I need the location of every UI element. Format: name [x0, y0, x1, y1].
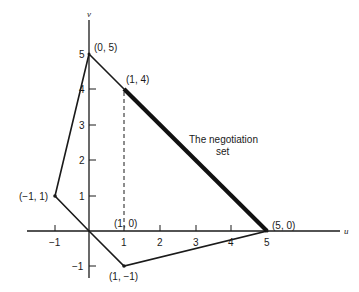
x-tick-label: 5: [264, 237, 270, 248]
y-ticks: [89, 89, 96, 266]
x-tick-label: 4: [228, 237, 234, 248]
x-tick-label: 2: [157, 237, 163, 248]
vertex-dots: [53, 53, 268, 268]
x-tick-label: −1: [49, 237, 61, 248]
negotiation-set-annotation-line1: The negotiation: [189, 134, 258, 145]
negotiation-set-diagram: v u −1 1 2 3 4 5 5 4 3 2 1 −1 (0, 5) (1,…: [0, 0, 359, 292]
feasible-region-outline: [55, 54, 267, 266]
y-tick-label: 4: [79, 84, 85, 95]
negotiation-set-line: [124, 89, 267, 231]
point-label-0-5: (0, 5): [94, 42, 117, 53]
y-tick-label: 3: [79, 120, 85, 131]
x-tick-label: 3: [193, 237, 199, 248]
y-axis-label: v: [87, 9, 91, 19]
x-axis-label: u: [344, 226, 349, 236]
point-label-1-4: (1, 4): [126, 74, 149, 85]
negotiation-set-annotation-line2: set: [216, 146, 230, 157]
x-ticks: [55, 225, 231, 231]
point-label-1-0: (1, 0): [114, 218, 137, 229]
point-label-5-0: (5, 0): [272, 220, 295, 231]
point-label-neg1-1: (−1, 1): [19, 191, 48, 202]
y-tick-label: −1: [72, 261, 84, 272]
y-tick-label: 2: [79, 155, 85, 166]
point-label-1-neg1: (1, −1): [109, 271, 138, 282]
x-tick-label: 1: [121, 237, 127, 248]
y-tick-label: 5: [79, 49, 85, 60]
y-tick-label: 1: [79, 191, 85, 202]
